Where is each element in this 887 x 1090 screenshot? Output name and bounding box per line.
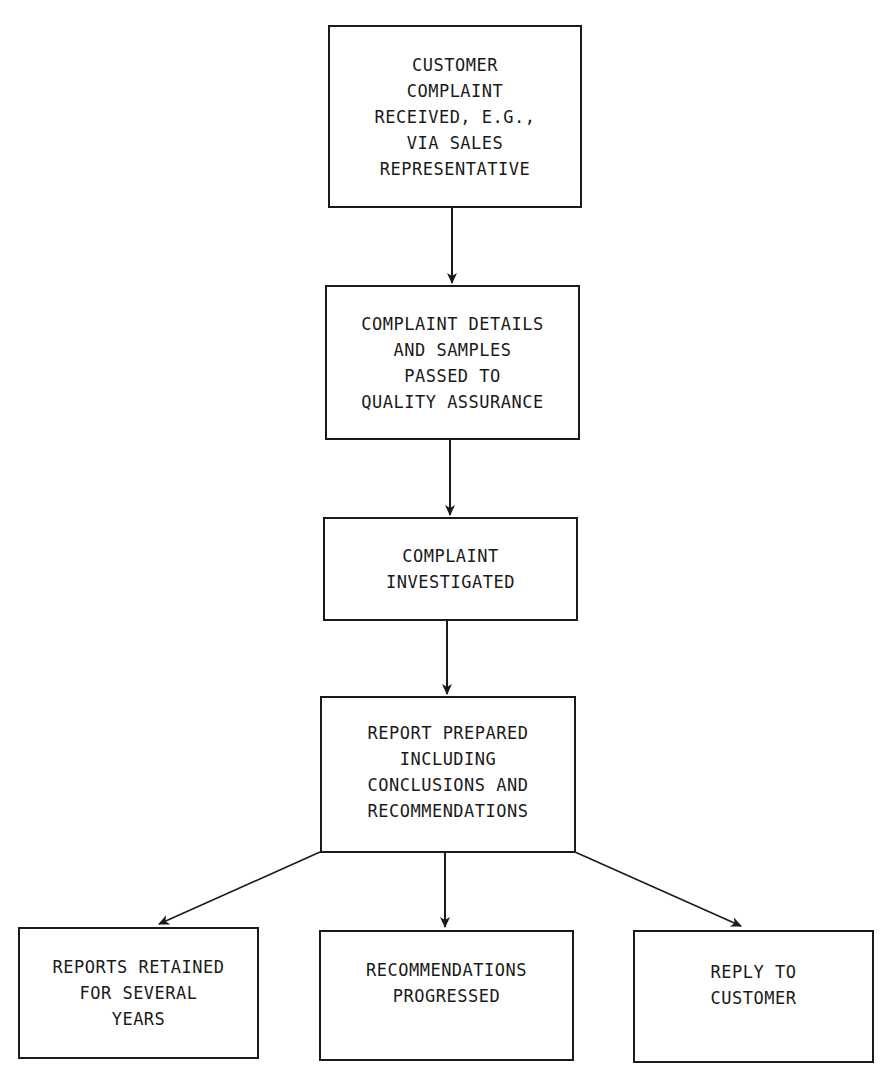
node-text: YEARS <box>112 1006 166 1032</box>
node-text: RECOMMENDATIONS <box>366 957 527 983</box>
node-text: RECOMMENDATIONS <box>367 798 528 824</box>
node-text: CONCLUSIONS AND <box>367 772 528 798</box>
node-text: REPRESENTATIVE <box>380 156 530 182</box>
node-text: COMPLAINT <box>402 543 499 569</box>
node-text: RECEIVED, E.G., <box>374 104 535 130</box>
node-text: INVESTIGATED <box>386 569 515 595</box>
node-reports-retained: REPORTS RETAINED FOR SEVERAL YEARS <box>18 927 259 1059</box>
node-text: AND SAMPLES <box>393 337 511 363</box>
arrow-n4-to-n5 <box>159 852 320 924</box>
node-text: FOR SEVERAL <box>79 980 197 1006</box>
node-text: REPORTS RETAINED <box>53 954 225 980</box>
node-text: COMPLAINT DETAILS <box>361 311 544 337</box>
node-text: CUSTOMER <box>711 985 797 1011</box>
node-text: PROGRESSED <box>393 983 500 1009</box>
flowchart-canvas: CUSTOMER COMPLAINT RECEIVED, E.G., VIA S… <box>0 0 887 1090</box>
node-text: INCLUDING <box>400 746 497 772</box>
arrow-n4-to-n7 <box>575 852 741 926</box>
node-text: CUSTOMER <box>412 52 498 78</box>
node-text: COMPLAINT <box>407 78 504 104</box>
node-text: REPLY TO <box>711 959 797 985</box>
node-reply-to-customer: REPLY TO CUSTOMER <box>633 930 874 1063</box>
node-text: PASSED TO <box>404 363 501 389</box>
node-complaint-investigated: COMPLAINT INVESTIGATED <box>323 517 578 621</box>
node-text: QUALITY ASSURANCE <box>361 389 544 415</box>
node-text: VIA SALES <box>407 130 504 156</box>
node-report-prepared: REPORT PREPARED INCLUDING CONCLUSIONS AN… <box>320 696 576 853</box>
node-complaint-received: CUSTOMER COMPLAINT RECEIVED, E.G., VIA S… <box>328 25 582 208</box>
node-details-passed-to-qa: COMPLAINT DETAILS AND SAMPLES PASSED TO … <box>325 285 580 440</box>
node-text: REPORT PREPARED <box>367 720 528 746</box>
node-recommendations-progressed: RECOMMENDATIONS PROGRESSED <box>319 930 574 1061</box>
